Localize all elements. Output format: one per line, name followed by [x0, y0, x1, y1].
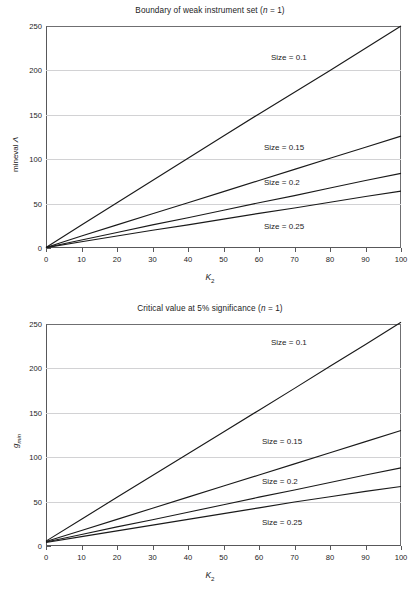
data-line-size-0-2 [46, 173, 401, 247]
chart-title-top-suffix: = 1) [268, 6, 285, 15]
plot-area-top [46, 26, 401, 248]
plot-area-bottom [46, 324, 401, 546]
y-axis-tick-label: 0 [8, 244, 42, 253]
chart-title-bottom-suffix: = 1) [266, 304, 283, 313]
data-line-size-0-2 [46, 468, 401, 542]
y-axis-tick-label: 250 [8, 22, 42, 31]
data-line-size-0-15 [46, 136, 401, 247]
x-axis-tick-label: 100 [386, 255, 416, 264]
x-axis-tick-labels-top: 0102030405060708090100 [0, 255, 420, 267]
y-axis-tick-label: 150 [8, 408, 42, 417]
y-axis-tick-label: 250 [8, 320, 42, 329]
x-axis-tick-mark [153, 546, 154, 550]
y-axis-tick-label: 150 [8, 110, 42, 119]
x-axis-tick-label: 60 [244, 553, 274, 562]
x-axis-tick-mark [188, 248, 189, 252]
x-axis-title-top-sub: 2 [211, 277, 214, 284]
x-axis-tick-label: 100 [386, 553, 416, 562]
x-axis-tick-mark [224, 546, 225, 550]
x-axis-tick-label: 60 [244, 255, 274, 264]
series-annotation: Size = 0.1 [271, 53, 307, 62]
y-axis-tick-label: 50 [8, 199, 42, 208]
x-axis-tick-mark [46, 546, 47, 550]
chart-panel-critical-value-5pct-significance: Critical value at 5% significance (n = 1… [0, 298, 420, 597]
x-axis-tick-mark [188, 546, 189, 550]
chart-panel-boundary-weak-instrument-set: Boundary of weak instrument set (n = 1) … [0, 0, 420, 299]
x-axis-ticks-top [46, 248, 401, 254]
x-axis-tick-mark [82, 248, 83, 252]
x-axis-tick-mark [401, 248, 402, 252]
x-axis-tick-label: 90 [351, 255, 381, 264]
x-axis-ticks-bottom [46, 546, 401, 552]
x-axis-tick-label: 50 [209, 255, 239, 264]
data-line-size-0-15 [46, 431, 401, 542]
data-line-size-0-1 [46, 26, 401, 248]
x-axis-tick-label: 50 [209, 553, 239, 562]
x-axis-tick-label: 30 [138, 255, 168, 264]
series-annotation: Size = 0.25 [262, 518, 302, 527]
x-axis-tick-mark [401, 546, 402, 550]
y-axis-tick-label: 0 [8, 542, 42, 551]
data-line-size-0-25 [46, 191, 401, 247]
data-lines-bottom [46, 324, 401, 546]
y-axis-tick-label: 50 [8, 497, 42, 506]
x-axis-tick-mark [330, 248, 331, 252]
y-axis-tick-labels-bottom: 050100150200250 [6, 324, 42, 546]
chart-title-bottom-prefix: Critical value at 5% significance ( [137, 304, 261, 313]
series-annotation: Size = 0.1 [271, 338, 307, 347]
x-axis-tick-mark [259, 248, 260, 252]
x-axis-tick-mark [117, 546, 118, 550]
chart-title-bottom: Critical value at 5% significance (n = 1… [0, 304, 420, 313]
data-lines-top [46, 26, 401, 248]
x-axis-tick-label: 90 [351, 553, 381, 562]
x-axis-tick-label: 10 [67, 255, 97, 264]
x-axis-tick-labels-bottom: 0102030405060708090100 [0, 553, 420, 565]
x-axis-tick-mark [295, 248, 296, 252]
series-annotation: Size = 0.15 [264, 143, 304, 152]
series-annotation: Size = 0.2 [264, 178, 300, 187]
x-axis-tick-label: 0 [31, 553, 61, 562]
figure-two-panel-chart: Boundary of weak instrument set (n = 1) … [0, 0, 420, 597]
x-axis-tick-label: 70 [280, 255, 310, 264]
x-axis-tick-mark [366, 248, 367, 252]
x-axis-tick-label: 70 [280, 553, 310, 562]
y-axis-tick-label: 100 [8, 453, 42, 462]
series-annotation: Size = 0.25 [264, 222, 304, 231]
data-line-size-0-25 [46, 487, 401, 543]
x-axis-tick-mark [82, 546, 83, 550]
x-axis-tick-label: 10 [67, 553, 97, 562]
chart-title-top-prefix: Boundary of weak instrument set ( [135, 6, 263, 15]
x-axis-tick-label: 20 [102, 553, 132, 562]
x-axis-tick-mark [295, 546, 296, 550]
x-axis-tick-mark [117, 248, 118, 252]
series-annotation: Size = 0.15 [262, 437, 302, 446]
x-axis-tick-label: 80 [315, 553, 345, 562]
x-axis-tick-label: 30 [138, 553, 168, 562]
x-axis-tick-label: 20 [102, 255, 132, 264]
series-annotation: Size = 0.2 [262, 477, 298, 486]
y-axis-tick-label: 200 [8, 364, 42, 373]
y-axis-tick-label: 100 [8, 155, 42, 164]
x-axis-title-bottom-sub: 2 [211, 575, 214, 582]
x-axis-tick-label: 40 [173, 553, 203, 562]
x-axis-tick-mark [366, 546, 367, 550]
x-axis-tick-mark [330, 546, 331, 550]
x-axis-tick-mark [224, 248, 225, 252]
x-axis-title-bottom: K2 [0, 570, 420, 582]
x-axis-tick-label: 0 [31, 255, 61, 264]
y-axis-tick-label: 200 [8, 66, 42, 75]
x-axis-tick-mark [259, 546, 260, 550]
x-axis-tick-label: 40 [173, 255, 203, 264]
x-axis-title-top: K2 [0, 272, 420, 284]
y-axis-tick-labels-top: 050100150200250 [6, 26, 42, 248]
chart-title-top: Boundary of weak instrument set (n = 1) [0, 6, 420, 15]
data-line-size-0-1 [46, 322, 401, 541]
x-axis-tick-mark [46, 248, 47, 252]
x-axis-tick-label: 80 [315, 255, 345, 264]
x-axis-tick-mark [153, 248, 154, 252]
